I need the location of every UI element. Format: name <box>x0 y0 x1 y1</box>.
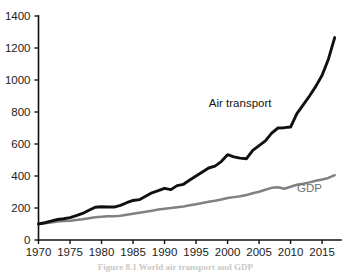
x-tick-label: 1980 <box>89 246 115 258</box>
x-axis-tick-labels: 1970197519801985199019952000200520102015 <box>26 246 335 258</box>
figure-caption: Figure 8.1 World air transport and GDP <box>0 261 351 273</box>
y-tick-label: 1200 <box>5 42 31 54</box>
gdp-series-label: GDP <box>297 182 322 194</box>
x-tick-label: 1990 <box>152 246 178 258</box>
x-tick-label: 1995 <box>183 246 209 258</box>
x-tick-label: 2015 <box>309 246 335 258</box>
y-tick-label: 200 <box>11 202 30 214</box>
y-tick-label: 400 <box>11 170 30 182</box>
y-tick-label: 600 <box>11 138 30 150</box>
y-tick-label: 1000 <box>5 74 31 86</box>
air-transport-series-label: Air transport <box>209 97 272 109</box>
y-axis-tick-labels: 0200400600800100012001400 <box>5 10 31 246</box>
x-tick-label: 1970 <box>26 246 52 258</box>
air-transport-series-line <box>39 38 335 224</box>
x-tick-label: 2010 <box>278 246 304 258</box>
y-tick-label: 0 <box>24 234 30 246</box>
y-tick-label: 800 <box>11 106 30 118</box>
figure-container: 0200400600800100012001400 19701975198019… <box>0 0 351 273</box>
x-tick-label: 1985 <box>120 246 146 258</box>
y-tick-label: 1400 <box>5 10 31 22</box>
x-tick-label: 2005 <box>246 246 272 258</box>
line-chart: 0200400600800100012001400 19701975198019… <box>0 0 351 273</box>
x-tick-label: 2000 <box>215 246 241 258</box>
x-tick-label: 1975 <box>57 246 83 258</box>
